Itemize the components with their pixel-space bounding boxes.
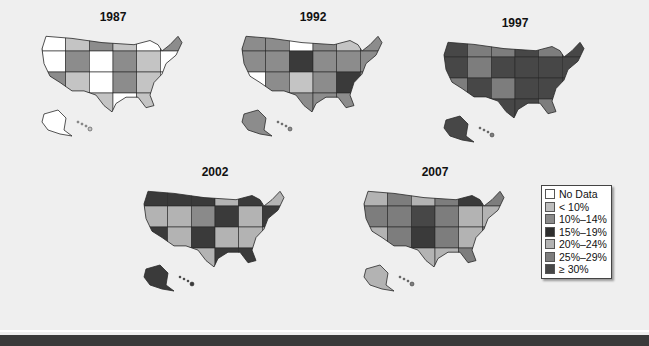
legend-swatch (545, 227, 555, 237)
legend-label: 10%–14% (559, 213, 607, 225)
us-state-map (140, 181, 290, 296)
legend-label: 25%–29% (559, 251, 607, 263)
caption-bar (0, 335, 649, 346)
map-title: 1987 (38, 10, 188, 24)
legend-swatch (545, 202, 555, 212)
legend-label: < 10% (559, 201, 589, 213)
map-2007: 2007 (360, 165, 510, 295)
legend-item-no-data: No Data (545, 188, 608, 201)
legend-item-ge30: ≥ 30% (545, 263, 608, 276)
map-title: 2002 (140, 165, 290, 179)
legend-item-25-29: 25%–29% (545, 251, 608, 264)
map-title: 1997 (440, 16, 590, 30)
map-title: 2007 (360, 165, 510, 179)
legend-swatch (545, 264, 555, 274)
us-state-map (38, 26, 188, 141)
map-title: 1992 (238, 10, 388, 24)
legend-swatch (545, 214, 555, 224)
us-state-map (440, 32, 590, 147)
legend-label: ≥ 30% (559, 263, 589, 275)
legend-item-20-24: 20%–24% (545, 238, 608, 251)
legend-swatch (545, 189, 555, 199)
legend-swatch (545, 252, 555, 262)
map-1997: 1997 (440, 10, 620, 140)
divider (0, 330, 649, 332)
legend-item-15-19: 15%–19% (545, 226, 608, 239)
legend: No Data < 10% 10%–14% 15%–19% 20%–24% 25… (541, 185, 612, 279)
legend-label: 20%–24% (559, 238, 607, 250)
legend-swatch (545, 239, 555, 249)
legend-item-10-14: 10%–14% (545, 213, 608, 226)
us-state-map (360, 181, 510, 296)
legend-item-lt10: < 10% (545, 201, 608, 214)
map-2002: 2002 (140, 165, 290, 295)
us-state-map (238, 26, 388, 141)
legend-label: No Data (559, 188, 598, 200)
legend-label: 15%–19% (559, 226, 607, 238)
map-1992: 1992 (238, 10, 388, 140)
map-1987: 1987 (38, 10, 188, 140)
